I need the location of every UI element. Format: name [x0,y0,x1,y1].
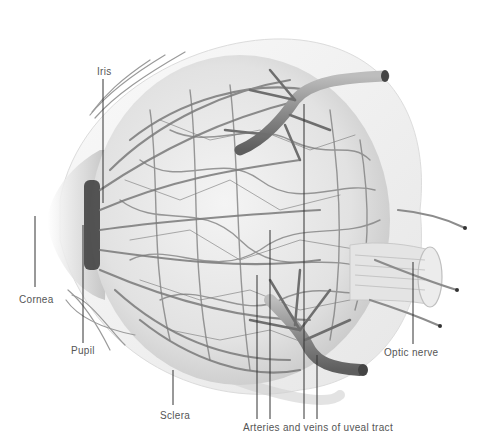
label-optic-nerve: Optic nerve [384,347,438,358]
label-cornea: Cornea [19,294,54,305]
label-arteries-veins: Arteries and veins of uveal tract [243,422,393,433]
pupil-region [84,180,100,270]
eye-diagram: Iris Cornea Pupil Sclera Arteries and ve… [0,0,488,446]
eye-illustration [0,0,488,446]
label-iris: Iris [97,66,112,77]
label-pupil: Pupil [71,345,95,356]
label-sclera: Sclera [160,410,190,421]
